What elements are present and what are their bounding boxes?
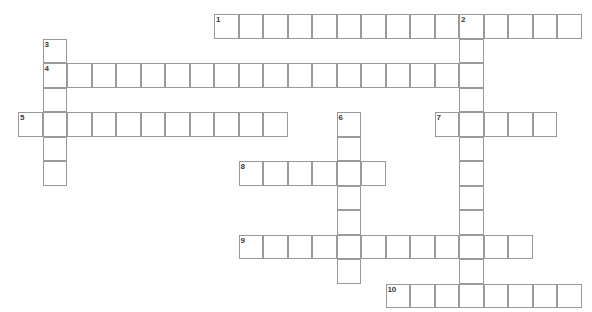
crossword-cell[interactable]: [435, 63, 460, 88]
crossword-cell[interactable]: [459, 63, 484, 88]
crossword-cell[interactable]: [214, 63, 239, 88]
crossword-cell[interactable]: [459, 137, 484, 162]
crossword-cell[interactable]: [141, 63, 166, 88]
crossword-cell[interactable]: [43, 88, 68, 113]
crossword-cell[interactable]: [67, 63, 92, 88]
crossword-cell[interactable]: [459, 259, 484, 284]
crossword-cell[interactable]: [508, 235, 533, 260]
crossword-cell[interactable]: [508, 284, 533, 309]
crossword-cell[interactable]: [386, 284, 411, 309]
crossword-cell[interactable]: [386, 63, 411, 88]
crossword-cell[interactable]: [263, 63, 288, 88]
crossword-cell[interactable]: [533, 112, 558, 137]
crossword-cell[interactable]: [361, 63, 386, 88]
crossword-cell[interactable]: [459, 112, 484, 137]
crossword-cell[interactable]: [533, 14, 558, 39]
crossword-cell[interactable]: [459, 235, 484, 260]
crossword-cell[interactable]: [141, 112, 166, 137]
crossword-cell[interactable]: [435, 112, 460, 137]
crossword-cell[interactable]: [459, 210, 484, 235]
crossword-cell[interactable]: [190, 112, 215, 137]
crossword-cell[interactable]: [239, 112, 264, 137]
crossword-cell[interactable]: [337, 161, 362, 186]
crossword-cell[interactable]: [165, 112, 190, 137]
crossword-cell[interactable]: [239, 235, 264, 260]
crossword-cell[interactable]: [508, 112, 533, 137]
crossword-cell[interactable]: [459, 14, 484, 39]
crossword-grid[interactable]: 12345678910: [0, 0, 592, 312]
crossword-cell[interactable]: [410, 14, 435, 39]
crossword-cell[interactable]: [484, 14, 509, 39]
crossword-cell[interactable]: [337, 186, 362, 211]
crossword-cell[interactable]: [557, 284, 582, 309]
crossword-cell[interactable]: [484, 112, 509, 137]
crossword-cell[interactable]: [116, 112, 141, 137]
crossword-cell[interactable]: [239, 161, 264, 186]
crossword-cell[interactable]: [435, 284, 460, 309]
crossword-cell[interactable]: [214, 112, 239, 137]
crossword-cell[interactable]: [239, 63, 264, 88]
crossword-cell[interactable]: [484, 284, 509, 309]
crossword-cell[interactable]: [288, 14, 313, 39]
crossword-cell[interactable]: [116, 63, 141, 88]
crossword-cell[interactable]: [361, 235, 386, 260]
crossword-cell[interactable]: [214, 14, 239, 39]
crossword-cell[interactable]: [361, 14, 386, 39]
crossword-cell[interactable]: [239, 14, 264, 39]
crossword-cell[interactable]: [263, 112, 288, 137]
crossword-cell[interactable]: [312, 14, 337, 39]
crossword-cell[interactable]: [459, 39, 484, 64]
crossword-cell[interactable]: [459, 88, 484, 113]
crossword-cell[interactable]: [288, 63, 313, 88]
crossword-cell[interactable]: [361, 161, 386, 186]
crossword-cell[interactable]: [43, 63, 68, 88]
crossword-cell[interactable]: [337, 235, 362, 260]
crossword-cell[interactable]: [386, 14, 411, 39]
crossword-cell[interactable]: [288, 161, 313, 186]
crossword-cell[interactable]: [508, 14, 533, 39]
crossword-cell[interactable]: [92, 112, 117, 137]
crossword-cell[interactable]: [43, 112, 68, 137]
crossword-cell[interactable]: [484, 235, 509, 260]
crossword-cell[interactable]: [386, 235, 411, 260]
crossword-cell[interactable]: [435, 235, 460, 260]
crossword-cell[interactable]: [337, 112, 362, 137]
crossword-cell[interactable]: [337, 63, 362, 88]
crossword-cell[interactable]: [312, 235, 337, 260]
crossword-cell[interactable]: [410, 63, 435, 88]
crossword-cell[interactable]: [410, 235, 435, 260]
crossword-cell[interactable]: [43, 39, 68, 64]
crossword-cell[interactable]: [165, 63, 190, 88]
crossword-cell[interactable]: [43, 161, 68, 186]
crossword-cell[interactable]: [67, 112, 92, 137]
crossword-cell[interactable]: [459, 284, 484, 309]
crossword-cell[interactable]: [459, 186, 484, 211]
crossword-cell[interactable]: [288, 235, 313, 260]
crossword-cell[interactable]: [337, 210, 362, 235]
crossword-cell[interactable]: [410, 284, 435, 309]
crossword-cell[interactable]: [18, 112, 43, 137]
crossword-cell[interactable]: [190, 63, 215, 88]
crossword-cell[interactable]: [557, 14, 582, 39]
crossword-cell[interactable]: [312, 161, 337, 186]
crossword-cell[interactable]: [337, 259, 362, 284]
crossword-cell[interactable]: [337, 14, 362, 39]
crossword-cell[interactable]: [435, 14, 460, 39]
crossword-cell[interactable]: [533, 284, 558, 309]
crossword-cell[interactable]: [459, 161, 484, 186]
crossword-cell[interactable]: [92, 63, 117, 88]
crossword-cell[interactable]: [312, 63, 337, 88]
crossword-cell[interactable]: [263, 235, 288, 260]
crossword-cell[interactable]: [263, 161, 288, 186]
crossword-cell[interactable]: [43, 137, 68, 162]
crossword-cell[interactable]: [263, 14, 288, 39]
crossword-cell[interactable]: [337, 137, 362, 162]
